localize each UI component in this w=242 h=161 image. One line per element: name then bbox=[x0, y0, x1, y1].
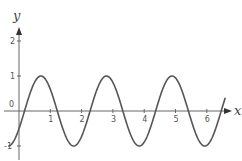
sine-chart: x y 0 123456 21-1 bbox=[0, 0, 242, 161]
x-tick-label: 4 bbox=[142, 115, 147, 124]
x-tick-label: 2 bbox=[80, 115, 85, 124]
x-axis-arrow-icon bbox=[224, 108, 232, 114]
x-tick-label: 5 bbox=[174, 115, 179, 124]
x-axis-label: x bbox=[234, 103, 242, 118]
y-axis-arrow-icon bbox=[16, 27, 22, 35]
y-tick-label: 1 bbox=[10, 72, 15, 81]
x-tick-label: 1 bbox=[48, 115, 53, 124]
y-tick-label: 2 bbox=[10, 37, 15, 46]
y-ticks: 21-1 bbox=[4, 37, 21, 151]
x-tick-label: 3 bbox=[111, 115, 116, 124]
y-tick-label: -1 bbox=[4, 142, 12, 151]
y-axis-label: y bbox=[12, 8, 21, 23]
origin-label: 0 bbox=[9, 100, 14, 109]
x-tick-label: 6 bbox=[205, 115, 210, 124]
